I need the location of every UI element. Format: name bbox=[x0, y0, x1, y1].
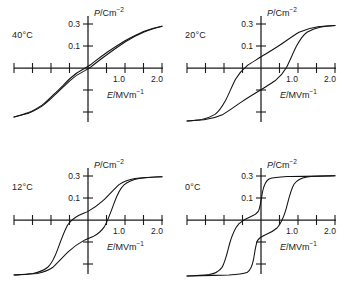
y-tick-label-01-40c: 0.1 bbox=[68, 41, 80, 51]
y-tick-label-03-40c: 0.3 bbox=[68, 19, 80, 29]
y-tick-label-01-20c: 0.1 bbox=[241, 41, 253, 51]
chart-panel-12c: 12°C P/Cm−2 E/MVm−1 bbox=[0, 152, 173, 304]
x-axis-title-12c: E/MVm−1 bbox=[107, 240, 144, 252]
x-tick-label-2-20c: 2.0 bbox=[324, 74, 336, 84]
x-tick-label-1-0c: 1.0 bbox=[286, 226, 298, 236]
y-axis-title-12c: P/Cm−2 bbox=[94, 158, 124, 170]
panel-temperature-label-20c: 20°C bbox=[185, 30, 206, 40]
x-tick-label-1-20c: 1.0 bbox=[286, 74, 298, 84]
x-axis-title-40c: E/MVm−1 bbox=[107, 88, 144, 100]
chart-panel-20c: 20°C P/Cm−2 E/MVm−1 bbox=[173, 0, 346, 152]
panel-temperature-label-12c: 12°C bbox=[12, 182, 33, 192]
x-tick-label-1-12c: 1.0 bbox=[113, 226, 125, 236]
x-axis-title-0c: E/MVm−1 bbox=[280, 240, 317, 252]
y-tick-label-03-12c: 0.3 bbox=[68, 171, 80, 181]
y-axis-title-40c: P/Cm−2 bbox=[94, 6, 124, 18]
axes-0c: 1.0 2.0 0.1 0.3 bbox=[187, 168, 336, 274]
y-axis-title-0c: P/Cm−2 bbox=[267, 158, 297, 170]
chart-panel-40c: 40°C P/Cm−2 E/MVm−1 bbox=[0, 0, 173, 152]
y-tick-label-03-20c: 0.3 bbox=[241, 19, 253, 29]
plot-area-0c: 1.0 2.0 0.1 0.3 bbox=[173, 152, 346, 304]
x-tick-label-2-12c: 2.0 bbox=[151, 226, 163, 236]
chart-panel-0c: 0°C P/Cm−2 E/MVm−1 bbox=[173, 152, 346, 304]
y-tick-label-01-0c: 0.1 bbox=[241, 193, 253, 203]
hysteresis-figure: 40°C P/Cm−2 E/MVm−1 bbox=[0, 0, 346, 304]
y-tick-label-01-12c: 0.1 bbox=[68, 193, 80, 203]
y-axis-title-20c: P/Cm−2 bbox=[267, 6, 297, 18]
x-axis-title-20c: E/MVm−1 bbox=[280, 88, 317, 100]
axes-12c: 1.0 2.0 0.1 0.3 bbox=[14, 168, 163, 274]
plot-area-40c: 1.0 2.0 0.1 0.3 bbox=[0, 0, 173, 152]
plot-area-20c: 1.0 2.0 0.1 0.3 bbox=[173, 0, 346, 152]
panel-temperature-label-40c: 40°C bbox=[12, 30, 33, 40]
x-tick-label-1-40c: 1.0 bbox=[113, 74, 125, 84]
y-tick-label-03-0c: 0.3 bbox=[241, 171, 253, 181]
x-tick-label-2-40c: 2.0 bbox=[151, 74, 163, 84]
panel-temperature-label-0c: 0°C bbox=[185, 182, 201, 192]
plot-area-12c: 1.0 2.0 0.1 0.3 bbox=[0, 152, 173, 304]
x-tick-label-2-0c: 2.0 bbox=[324, 226, 336, 236]
axes-20c: 1.0 2.0 0.1 0.3 bbox=[187, 16, 336, 122]
